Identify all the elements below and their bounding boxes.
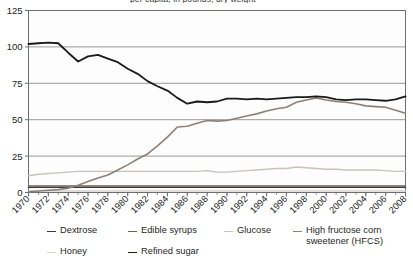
legend-swatch-honey-icon bbox=[47, 252, 56, 253]
xtick-label-1984: 1984 bbox=[149, 194, 171, 216]
xtick-label-group-1972: 1972 bbox=[30, 194, 52, 216]
legend-row-1: Dextrose Edible syrups Glucose High fruc… bbox=[0, 225, 413, 245]
legend-item-refined-sugar[interactable]: Refined sugar bbox=[128, 246, 199, 257]
ytick-label-50: 50 bbox=[12, 114, 23, 125]
xtick-label-group-1998: 1998 bbox=[288, 194, 310, 216]
legend-label-refined-sugar: Refined sugar bbox=[141, 246, 199, 257]
legend-swatch-glucose-icon bbox=[224, 231, 233, 232]
xtick-label-1986: 1986 bbox=[169, 194, 191, 216]
xtick-label-1970: 1970 bbox=[10, 194, 32, 216]
ytick-label-100: 100 bbox=[7, 41, 23, 52]
legend-item-dextrose[interactable]: Dextrose bbox=[47, 225, 97, 236]
xtick-label-group-2000: 2000 bbox=[308, 194, 330, 216]
legend-item-honey[interactable]: Honey bbox=[47, 246, 87, 257]
xtick-label-group-1996: 1996 bbox=[268, 194, 290, 216]
xtick-label-1980: 1980 bbox=[109, 194, 131, 216]
xtick-label-group-2006: 2006 bbox=[367, 194, 389, 216]
xtick-label-2004: 2004 bbox=[347, 194, 369, 216]
xtick-label-1982: 1982 bbox=[129, 194, 151, 216]
xtick-label-2008: 2008 bbox=[387, 194, 409, 216]
xtick-label-1992: 1992 bbox=[228, 194, 250, 216]
xtick-label-1998: 1998 bbox=[288, 194, 310, 216]
xtick-label-1994: 1994 bbox=[248, 194, 270, 216]
legend-row-2: Honey Refined sugar bbox=[0, 246, 413, 266]
ytick-label-25: 25 bbox=[12, 151, 23, 162]
xtick-label-1974: 1974 bbox=[50, 194, 72, 216]
xtick-label-group-1994: 1994 bbox=[248, 194, 270, 216]
legend-label-edible-syrups: Edible syrups bbox=[141, 225, 197, 236]
xtick-label-group-2002: 2002 bbox=[327, 194, 349, 216]
sweetener-consumption-line-chart: per capita, in pounds, dry weight 025507… bbox=[0, 0, 413, 271]
xtick-label-group-1984: 1984 bbox=[149, 194, 171, 216]
legend-label-hfcs: High fructose corn sweetener (HFCS) bbox=[306, 225, 383, 247]
legend-swatch-hfcs-icon bbox=[293, 231, 302, 232]
xtick-label-1996: 1996 bbox=[268, 194, 290, 216]
ytick-label-75: 75 bbox=[12, 78, 23, 89]
legend-item-hfcs[interactable]: High fructose corn sweetener (HFCS) bbox=[293, 225, 383, 247]
legend-item-glucose[interactable]: Glucose bbox=[224, 225, 271, 236]
chart-plot-area: 0255075100125197019721974197619781980198… bbox=[0, 0, 413, 225]
xtick-label-1978: 1978 bbox=[89, 194, 111, 216]
xtick-label-1988: 1988 bbox=[188, 194, 210, 216]
xtick-label-group-2004: 2004 bbox=[347, 194, 369, 216]
xtick-label-1976: 1976 bbox=[69, 194, 91, 216]
legend-label-glucose: Glucose bbox=[237, 225, 271, 236]
chart-legend: Dextrose Edible syrups Glucose High fruc… bbox=[0, 225, 413, 271]
xtick-label-1972: 1972 bbox=[30, 194, 52, 216]
xtick-label-group-1976: 1976 bbox=[69, 194, 91, 216]
xtick-label-2002: 2002 bbox=[327, 194, 349, 216]
xtick-label-1990: 1990 bbox=[208, 194, 230, 216]
xtick-label-group-1974: 1974 bbox=[50, 194, 72, 216]
xtick-label-group-1990: 1990 bbox=[208, 194, 230, 216]
legend-swatch-refined-sugar-icon bbox=[128, 252, 137, 253]
xtick-label-2006: 2006 bbox=[367, 194, 389, 216]
xtick-label-group-1978: 1978 bbox=[89, 194, 111, 216]
xtick-label-group-1980: 1980 bbox=[109, 194, 131, 216]
legend-swatch-dextrose-icon bbox=[47, 231, 56, 232]
xtick-label-2000: 2000 bbox=[308, 194, 330, 216]
xtick-label-group-2008: 2008 bbox=[387, 194, 409, 216]
xtick-label-group-1988: 1988 bbox=[188, 194, 210, 216]
xtick-label-group-1982: 1982 bbox=[129, 194, 151, 216]
legend-label-honey: Honey bbox=[60, 246, 87, 257]
legend-swatch-edible-syrups-icon bbox=[128, 231, 137, 232]
xtick-label-group-1986: 1986 bbox=[169, 194, 191, 216]
xtick-label-group-1970: 1970 bbox=[10, 194, 32, 216]
ytick-label-125: 125 bbox=[7, 5, 23, 16]
legend-label-dextrose: Dextrose bbox=[60, 225, 97, 236]
xtick-label-group-1992: 1992 bbox=[228, 194, 250, 216]
legend-item-edible-syrups[interactable]: Edible syrups bbox=[128, 225, 197, 236]
